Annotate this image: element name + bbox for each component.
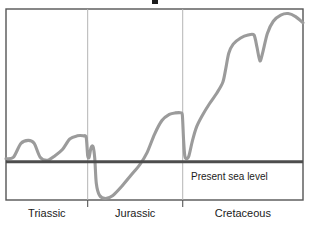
axis-label-triassic: Triassic — [28, 207, 66, 219]
axis-label-jurassic: Jurassic — [115, 207, 156, 219]
present-sea-level-label: Present sea level — [191, 171, 268, 182]
crop-artifact-mark — [152, 0, 158, 4]
sea-level-chart: Present sea level Triassic Jurassic Cret… — [0, 0, 311, 226]
axis-label-cretaceous: Cretaceous — [215, 207, 272, 219]
chart-canvas: Present sea level Triassic Jurassic Cret… — [0, 0, 311, 226]
